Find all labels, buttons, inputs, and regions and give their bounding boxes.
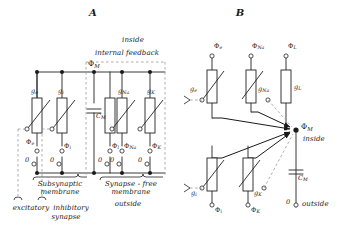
phi-subscript: M xyxy=(307,126,313,132)
phi-subscript: e xyxy=(219,45,222,50)
panel-b-ground-0: 0 xyxy=(286,199,290,206)
panel-a-battery-phie: Φe xyxy=(26,139,34,147)
g-subscript: i xyxy=(62,90,64,95)
panel-b-outside-label: outside xyxy=(302,201,329,208)
panel-a-battery-phik: ΦK xyxy=(152,143,161,151)
g-subscript: Na xyxy=(122,90,129,95)
panel-a-conductance-gi: gi xyxy=(58,88,64,96)
panel-b-capacitor-label: CM xyxy=(298,175,308,183)
panel-b-conductance-gl: gL xyxy=(294,84,301,92)
g-subscript: e xyxy=(35,90,38,95)
panel-a-battery-phii: Φi xyxy=(64,143,71,151)
panel-b-bottom-battery-phii: Φi xyxy=(215,207,222,215)
panel-a-conductance-ge: ge xyxy=(31,88,38,96)
panel-a-outside-label: outside xyxy=(115,201,142,208)
panel-b-synapse-forks xyxy=(184,96,190,192)
panel-b-conductance-ge: ge xyxy=(190,86,197,94)
panel-a-excitatory-label: excitatory xyxy=(13,205,50,212)
panel-a-conductance-gk: gK xyxy=(147,88,155,96)
panel-b-top-battery-phina: ΦNa xyxy=(252,43,265,51)
panel-b-conductance-gk: gK xyxy=(254,190,262,198)
panel-a-ground-0-3: 0 xyxy=(98,157,102,164)
c-subscript: M xyxy=(101,115,106,120)
g-subscript: e xyxy=(194,88,197,93)
panel-b-dashed-lines xyxy=(190,100,293,188)
panel-a-ground-0-5: 0 xyxy=(138,157,142,164)
phi-subscript: K xyxy=(256,209,260,214)
panel-b-top-battery-phie: Φe xyxy=(214,43,222,51)
panel-a-inside-label: inside xyxy=(122,37,144,44)
panel-a-battery-phil: Φl xyxy=(112,143,119,151)
phi-subscript: e xyxy=(31,141,34,146)
g-subscript: K xyxy=(151,90,155,95)
c-subscript: M xyxy=(303,177,308,182)
panel-b-converging-leads xyxy=(212,112,290,158)
panel-a-battery-phina: ΦNa xyxy=(124,143,137,151)
panel-a-ground-0-1: 0 xyxy=(25,157,29,164)
phi-subscript: M xyxy=(94,63,100,69)
panel-a-inhibitory-label: inhibitory xyxy=(53,205,89,212)
figure-canvas: A B inside internal feedback ΦM ge gi gN… xyxy=(0,0,338,233)
phi-subscript: Na xyxy=(129,145,136,150)
panel-a-synapse-free-line2: membrane xyxy=(112,189,151,196)
g-subscript: L xyxy=(298,86,301,91)
panel-b-inside-label: inside xyxy=(303,136,325,143)
g-subscript: K xyxy=(258,192,262,197)
phi-subscript: K xyxy=(157,145,161,150)
phi-subscript: l xyxy=(117,145,119,150)
g-subscript: Na xyxy=(262,88,269,93)
panel-b-top-battery-phil: ΦL xyxy=(288,43,297,51)
phi-subscript: i xyxy=(220,209,222,214)
panel-b-center-node-label: ΦM xyxy=(301,123,313,132)
phi-subscript: L xyxy=(293,45,296,50)
phi-subscript: Na xyxy=(257,45,264,50)
panel-b-resistors xyxy=(207,70,291,191)
panel-a-subsynaptic-line2: membrane xyxy=(41,189,80,196)
phi-subscript: i xyxy=(69,145,71,150)
panel-b-letter: B xyxy=(236,8,245,19)
panel-b-conductance-gna: gNa xyxy=(258,86,269,94)
panel-a-ground-0-2: 0 xyxy=(50,157,54,164)
panel-a-synapse-label: synapse xyxy=(51,214,80,221)
panel-a-phi-m-label: ΦM xyxy=(88,60,100,69)
panel-a-letter: A xyxy=(89,8,97,19)
panel-a-conductance-gna: gNa xyxy=(118,88,129,96)
g-subscript: i xyxy=(195,192,197,197)
panel-b-conductance-gi: gi xyxy=(191,190,197,198)
panel-a-internal-feedback-label: internal feedback xyxy=(95,50,159,57)
panel-a-capacitor-label: CM xyxy=(96,113,106,121)
panel-b-center-node xyxy=(293,127,298,132)
panel-b-bottom-battery-phik: ΦK xyxy=(251,207,260,215)
panel-a-ground-0-4: 0 xyxy=(110,157,114,164)
